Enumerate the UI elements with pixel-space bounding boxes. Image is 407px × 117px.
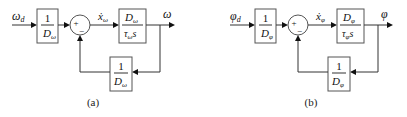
arrow-head-icon — [169, 22, 175, 28]
output-label: ω — [163, 7, 171, 21]
input-label: φd — [230, 9, 242, 24]
input-label: ωd — [12, 9, 25, 24]
output-label: φ — [381, 7, 388, 21]
arrow-head-icon — [350, 69, 356, 75]
arrow-head-icon — [113, 22, 119, 28]
minus-sign: − — [297, 26, 302, 36]
arrow-head-icon — [331, 22, 337, 28]
feedback-numerator: 1 — [336, 60, 342, 72]
arrow-head-icon — [132, 69, 138, 75]
prefilter-numerator: 1 — [263, 12, 269, 24]
caption-a: (a) — [87, 96, 100, 109]
minus-sign: − — [79, 26, 84, 36]
arrow-head-icon — [249, 22, 255, 28]
feedback-return-line — [80, 40, 110, 72]
feedback-numerator: 1 — [118, 60, 124, 72]
prefilter-numerator: 1 — [45, 12, 51, 24]
arrow-head-icon — [31, 22, 37, 28]
diagram-b: φd 1 Dφ + − ẋφ Dφ τφs φ 1 Dφ — [230, 7, 393, 109]
diagram-a: ωd 1 Dω + − ẋω Dω τωs ω 1 Dω — [12, 7, 175, 109]
caption-b: (b) — [305, 96, 318, 109]
arrow-head-icon — [387, 22, 393, 28]
plus-sign: + — [74, 18, 79, 28]
arrow-head-icon — [64, 22, 70, 28]
arrow-head-icon — [282, 22, 288, 28]
feedback-return-line — [298, 40, 328, 72]
signal-label: ẋω — [97, 10, 108, 24]
signal-label: ẋφ — [315, 10, 325, 24]
block-diagrams: ωd 1 Dω + − ẋω Dω τωs ω 1 Dω — [0, 0, 407, 117]
plus-sign: + — [292, 18, 297, 28]
